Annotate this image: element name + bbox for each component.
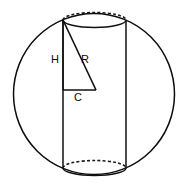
label-height: H — [51, 53, 59, 65]
sphere-outline — [14, 14, 175, 175]
cylinder-bottom-back-arc-dashed — [63, 161, 126, 168]
label-radius: R — [81, 53, 89, 65]
label-base: C — [74, 91, 82, 103]
geometry-figure: H R C — [0, 0, 188, 188]
triangle-hypotenuse — [63, 20, 96, 90]
cylinder-top-front-arc — [63, 20, 126, 28]
cylinder-in-sphere-diagram: H R C — [0, 0, 188, 188]
